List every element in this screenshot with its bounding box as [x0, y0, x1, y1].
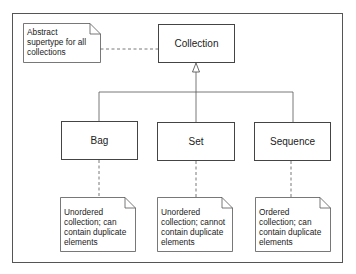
- note-line: elements: [161, 237, 195, 247]
- class-name: Collection: [175, 38, 219, 49]
- note-line: Unordered: [64, 207, 104, 217]
- class-name: Sequence: [270, 136, 315, 147]
- class-name: Set: [188, 136, 203, 147]
- note-line: supertype for all: [27, 37, 86, 47]
- note-line: elements: [259, 237, 293, 247]
- note-line: contain duplicate: [64, 227, 127, 237]
- class-name: Bag: [91, 135, 109, 146]
- class-sequence: Sequence: [255, 123, 331, 161]
- bag-note: Unordered collection; can contain duplic…: [61, 198, 136, 252]
- note-line: collections: [27, 47, 66, 57]
- class-set: Set: [158, 123, 235, 161]
- class-collection: Collection: [159, 25, 235, 63]
- note-line: collection; can: [64, 217, 117, 227]
- class-bag: Bag: [62, 122, 138, 160]
- uml-diagram: Abstract supertype for all collections C…: [0, 0, 356, 274]
- note-line: Abstract: [27, 27, 58, 37]
- collection-note: Abstract supertype for all collections: [24, 24, 101, 63]
- note-line: Unordered: [161, 207, 201, 217]
- note-line: collection; cannot: [161, 217, 226, 227]
- sequence-note: Ordered collection; can contain duplicat…: [256, 198, 331, 252]
- note-line: contain duplicate: [259, 227, 322, 237]
- note-line: Ordered: [259, 207, 290, 217]
- set-note: Unordered collection; cannot contain dup…: [158, 198, 233, 252]
- note-line: contain duplicate: [161, 227, 224, 237]
- note-line: elements: [64, 237, 98, 247]
- note-line: collection; can: [259, 217, 312, 227]
